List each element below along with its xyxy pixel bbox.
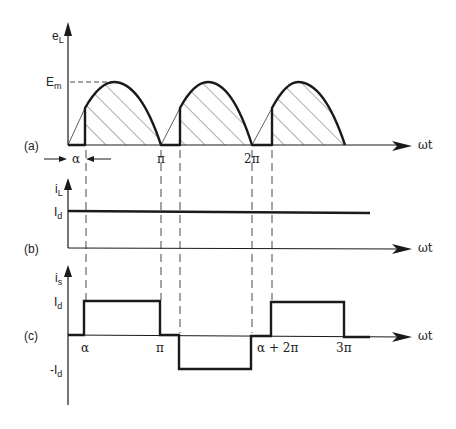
panel-c-x-label: ωt — [418, 330, 433, 342]
two-pi-label: 2π — [244, 153, 260, 165]
tick-alpha: α — [81, 342, 89, 354]
alpha-label: α — [72, 153, 80, 165]
panel-a-tag: (a) — [24, 140, 39, 152]
pi-label: π — [157, 153, 165, 165]
panel-b-x-label: ωt — [418, 242, 433, 254]
panel-c-neg-id-label: -Id — [50, 364, 62, 379]
panel-a — [44, 22, 412, 162]
panel-a-y-label: eL — [52, 30, 64, 45]
tick-3pi: 3π — [336, 342, 352, 354]
panel-b — [64, 178, 412, 254]
tick-alpha-2pi: α + 2π — [257, 342, 298, 354]
tick-pi: π — [156, 342, 164, 354]
panel-c-y-label: is — [55, 272, 62, 287]
diagram-root: eL Em (a) ωt α π 2π iL Id (b) ωt is Id -… — [0, 0, 456, 429]
panel-a-x-label: ωt — [418, 139, 433, 151]
panel-b-id-label: Id — [54, 206, 62, 221]
waveform-drawing — [0, 0, 456, 429]
panel-b-y-label: iL — [55, 183, 63, 198]
panel-b-tag: (b) — [24, 243, 39, 255]
panel-c-id-label: Id — [54, 296, 62, 311]
y-axis-arrow-icon — [64, 22, 72, 36]
panel-c-tag: (c) — [24, 330, 38, 342]
panel-c — [64, 265, 412, 405]
guide-lines — [86, 150, 272, 333]
x-axis-arrow-icon — [392, 141, 412, 151]
panel-a-em-label: Em — [46, 76, 62, 91]
